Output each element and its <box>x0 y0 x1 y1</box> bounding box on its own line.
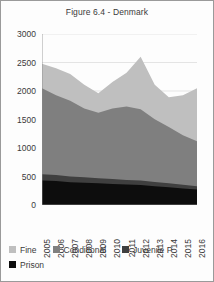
y-axis-tick-label: 1000 <box>17 143 36 153</box>
legend-label: Prison <box>20 260 44 270</box>
x-axis: 2005200620072008200920102011201220132014… <box>42 207 197 241</box>
legend-item-conditional[interactable]: Conditional <box>53 245 107 255</box>
plot-area <box>42 34 197 205</box>
page-title: Figure 6.4 - Denmark <box>1 7 213 17</box>
legend-swatch-icon <box>122 246 129 253</box>
legend-swatch-icon <box>9 246 16 253</box>
legend-row-2: Prison <box>9 257 209 272</box>
legend-item-juvenile-p[interactable]: Juvenile P <box>122 245 172 255</box>
y-axis: 050010001500200025003000 <box>1 34 39 205</box>
y-axis-tick-label: 1500 <box>17 115 36 125</box>
legend-swatch-icon <box>9 261 16 268</box>
y-axis-tick-label: 2000 <box>17 86 36 96</box>
legend-item-prison[interactable]: Prison <box>9 260 44 270</box>
legend-row-1: FineConditionalJuvenile P <box>9 242 209 257</box>
legend-label: Conditional <box>64 245 107 255</box>
y-axis-tick-label: 2500 <box>17 58 36 68</box>
legend-label: Fine <box>20 245 37 255</box>
y-axis-tick-label: 3000 <box>17 29 36 39</box>
legend-swatch-icon <box>53 246 60 253</box>
y-axis-tick-label: 500 <box>22 172 36 182</box>
y-axis-tick-label: 0 <box>31 200 36 210</box>
chart-figure-card: Figure 6.4 - Denmark 0500100015002000250… <box>0 0 214 282</box>
chart-legend: FineConditionalJuvenile P Prison <box>9 242 209 272</box>
stacked-area-svg <box>42 34 197 205</box>
legend-label: Juvenile P <box>133 245 172 255</box>
legend-item-fine[interactable]: Fine <box>9 245 37 255</box>
